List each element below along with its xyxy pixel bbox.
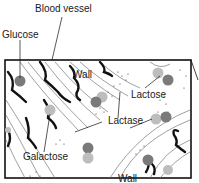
glucose-molecule bbox=[143, 155, 154, 166]
galactose-molecule bbox=[83, 153, 94, 164]
galactose-molecule bbox=[151, 114, 162, 125]
intestine-diagram: Blood vessel Glucose Wall Lactose Lactas… bbox=[0, 0, 199, 183]
galactose-leader bbox=[44, 114, 50, 152]
galactose-molecule bbox=[163, 165, 173, 175]
lactose-leader bbox=[145, 76, 160, 88]
galactose-molecule bbox=[5, 127, 11, 133]
lactase-leader-2 bbox=[75, 122, 102, 132]
blood-vessel-leader bbox=[52, 17, 62, 60]
glucose-molecule bbox=[161, 112, 172, 123]
label-lactose: Lactose bbox=[131, 89, 166, 100]
lactose-glucose bbox=[91, 97, 102, 108]
leader-lines bbox=[20, 17, 160, 152]
glucose-molecule bbox=[83, 143, 94, 154]
label-galactose: Galactose bbox=[23, 151, 68, 162]
galactose-molecule bbox=[45, 105, 56, 116]
label-lactase: Lactase bbox=[108, 115, 143, 126]
lactose-glucose bbox=[163, 75, 174, 86]
label-glucose: Glucose bbox=[2, 29, 39, 40]
label-wall-top: Wall bbox=[73, 69, 92, 80]
label-wall-bottom: Wall bbox=[118, 173, 137, 183]
label-blood-vessel: Blood vessel bbox=[35, 3, 92, 14]
lactose-galactose bbox=[153, 68, 164, 79]
frame-edge-line bbox=[191, 60, 198, 80]
